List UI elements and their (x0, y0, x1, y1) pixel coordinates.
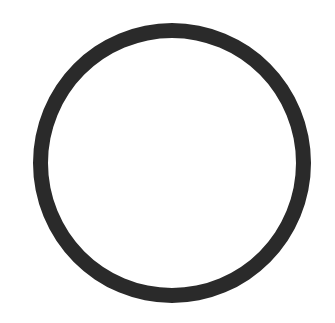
ring-shape (33, 23, 311, 303)
